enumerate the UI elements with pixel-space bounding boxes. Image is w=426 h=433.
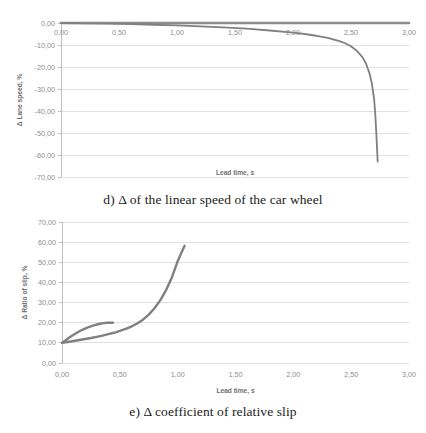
y-axis-title: Δ Lane speed, % [16,74,24,127]
x-tick-label: 1,00 [170,28,184,37]
caption-figure-e: e) Δ coefficient of relative slip [0,404,426,420]
x-axis-title: Lead time, s [216,387,254,395]
figure-d: 0,00-10,00-20,00-30,00-40,00-50,00-60,00… [0,0,426,215]
x-tick-label: 0,50 [112,28,126,37]
y-tick-label: 0,00 [42,359,56,368]
y-tick-label: -40,00 [35,107,55,116]
y-tick-label: 50,00 [38,258,56,267]
x-tick-label: 0,50 [113,370,127,379]
y-tick-label: 30,00 [38,298,56,307]
chart-d-linear-speed: 0,00-10,00-20,00-30,00-40,00-50,00-60,00… [0,0,426,190]
y-tick-label: 40,00 [38,278,56,287]
caption-figure-d: d) Δ of the linear speed of the car whee… [0,192,426,208]
data-series-line [62,246,185,343]
chart-e-container: 0,0010,0020,0030,0040,0050,0060,0070,000… [0,215,426,400]
x-tick-label: 2,00 [286,370,300,379]
chart-d-container: 0,00-10,00-20,00-30,00-40,00-50,00-60,00… [0,0,426,190]
x-tick-label: 1,50 [228,28,242,37]
y-tick-label: -10,00 [35,41,55,50]
x-tick-label: 3,00 [402,370,416,379]
figure-page: 0,00-10,00-20,00-30,00-40,00-50,00-60,00… [0,0,426,433]
y-axis-title: Δ Ratio of slip, % [21,265,29,319]
y-tick-label: 20,00 [38,318,56,327]
data-series-line [61,23,378,161]
chart-e-relative-slip: 0,0010,0020,0030,0040,0050,0060,0070,000… [0,215,426,400]
x-tick-label: 1,50 [229,370,243,379]
x-tick-label: 2,50 [344,28,358,37]
x-axis-title: Lead time, s [216,169,254,177]
y-tick-label: 60,00 [38,238,56,247]
y-tick-label: -70,00 [35,173,55,182]
x-tick-label: 2,50 [344,370,358,379]
x-tick-label: 0,00 [55,370,69,379]
figure-e: 0,0010,0020,0030,0040,0050,0060,0070,000… [0,215,426,433]
x-tick-label: 1,00 [171,370,185,379]
x-tick-label: 0,00 [54,28,68,37]
y-tick-label: 70,00 [38,218,56,227]
y-tick-label: 0,00 [41,19,55,28]
x-tick-label: 3,00 [402,28,416,37]
y-tick-label: -30,00 [35,85,55,94]
y-tick-label: -20,00 [35,63,55,72]
y-tick-label: -50,00 [35,129,55,138]
y-tick-label: -60,00 [35,151,55,160]
y-tick-label: 10,00 [38,338,56,347]
